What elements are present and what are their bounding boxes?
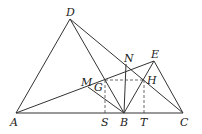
- label-H: H: [146, 74, 157, 87]
- label-E: E: [150, 48, 159, 61]
- segment-BN: [124, 64, 126, 113]
- label-S: S: [101, 116, 109, 129]
- point-labels: D N E M G H A S B T C: [9, 6, 189, 129]
- label-M: M: [80, 76, 93, 89]
- solid-segments: [16, 19, 183, 113]
- label-B: B: [119, 116, 128, 129]
- segment-DB: [70, 19, 124, 113]
- label-A: A: [9, 116, 18, 129]
- segment-DC: [70, 19, 183, 113]
- segment-BE: [124, 61, 154, 113]
- segment-EC: [154, 61, 183, 113]
- geometry-diagram: D N E M G H A S B T C: [0, 0, 202, 134]
- label-N: N: [123, 52, 134, 65]
- segment-AD: [16, 19, 70, 113]
- label-T: T: [140, 116, 149, 129]
- label-D: D: [65, 6, 75, 19]
- label-C: C: [180, 116, 189, 129]
- label-G: G: [94, 81, 103, 94]
